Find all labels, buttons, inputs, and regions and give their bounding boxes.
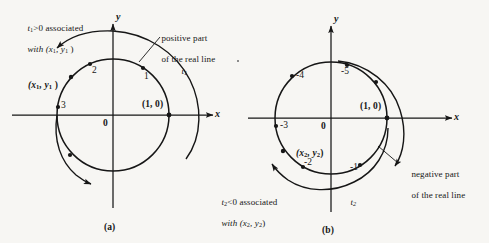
panel-a-point-lower	[68, 153, 72, 157]
page-speck	[237, 60, 239, 62]
panel-b-circle-point-post: )	[320, 148, 323, 158]
panel-b-tick-label-minus4: -4	[296, 70, 304, 81]
panel-b-annotation-right-line1: negative part	[411, 169, 459, 179]
panel-b-tick-label-minus5: -5	[341, 66, 349, 77]
figure-root: t1>0 associated with (x1, y1 ) positive …	[0, 0, 489, 243]
panel-a-circle-point-label: (x1, y1 )	[18, 69, 58, 103]
panel-b-point-minus4	[290, 74, 294, 78]
panel-b-caption: (b)	[322, 225, 334, 236]
panel-a-annotation-left-line2-pre: with (x	[27, 44, 52, 54]
panel-b-arc-param-sub: 2	[353, 200, 356, 207]
panel-b-point-minus1	[358, 163, 362, 167]
panel-a-point-unit	[167, 113, 172, 118]
panel-a-annotation-right-line1: positive part	[161, 33, 207, 43]
panel-b-origin-label: 0	[321, 121, 326, 132]
panel-a-point-x1y1	[69, 75, 73, 79]
panel-b-arc-param-label: t2	[341, 186, 356, 218]
panel-a-annotation-left-line2-post: )	[68, 44, 73, 54]
panel-b-tick-label-minus1: -1	[350, 162, 358, 173]
panel-b-annotation-left: t2<0 associated with (x2, y2)	[212, 186, 277, 239]
panel-a-tick-label-1: 1	[144, 71, 149, 82]
panel-a-annotation-right-line2: of the real line	[161, 54, 215, 64]
panel-a-tick-label-3: 3	[61, 100, 66, 111]
panel-b-x-axis-label: x	[454, 111, 459, 123]
panel-a-circle-point-mid: , y	[39, 80, 48, 90]
panel-a-annotation-left-line2-mid: , y	[56, 44, 65, 54]
panel-b-point-upper	[374, 80, 378, 84]
panel-b-y-axis-label: y	[334, 13, 339, 25]
panel-b-annotation-right-line2: of the real line	[411, 190, 465, 200]
panel-b-annotation-left-line2-pre: with (x	[221, 218, 246, 228]
panel-b-tick-label-minus2: -2	[304, 157, 312, 168]
panel-a-origin-label: 0	[103, 118, 108, 129]
panel-b-leader-line	[378, 146, 398, 163]
panel-a-tick-label-2: 2	[92, 65, 97, 76]
panel-a-point-1	[141, 66, 145, 70]
panel-b-annotation-right: negative part of the real line	[402, 158, 465, 211]
panel-b-point-unit	[385, 116, 390, 121]
panel-b-point-x2y2	[281, 149, 285, 153]
panel-b-annotation-left-line2-mid: , y	[250, 218, 259, 228]
panel-b-tick-label-minus3: -3	[280, 120, 288, 131]
panel-a-circle-point-post: )	[52, 80, 58, 90]
panel-a-arc-param-sub: 1	[184, 69, 187, 76]
panel-a-circle-point-pre: (x	[28, 80, 36, 90]
panel-a-annotation-left: t1>0 associated with (x1, y1 )	[18, 12, 83, 65]
panel-a-y-axis-label: y	[116, 11, 121, 23]
panel-b-point-minus3	[274, 124, 278, 128]
panel-b-unit-point-label: (1, 0)	[360, 101, 381, 112]
panel-b-annotation-left-line2-post: )	[262, 218, 265, 228]
panel-a-unit-point-label: (1, 0)	[142, 99, 163, 110]
panel-a-arc-param-label: t1	[172, 55, 187, 87]
panel-a-spiral-tail	[56, 115, 91, 184]
panel-b-circle-point-pre: (x	[296, 148, 304, 158]
panel-a-annotation-left-rest: >0 associated	[33, 23, 83, 33]
panel-b-annotation-left-rest: <0 associated	[227, 197, 277, 207]
panel-a-x-axis-label: x	[215, 108, 220, 120]
panel-a-caption: (a)	[104, 222, 115, 233]
panel-a-point-3	[56, 105, 60, 109]
